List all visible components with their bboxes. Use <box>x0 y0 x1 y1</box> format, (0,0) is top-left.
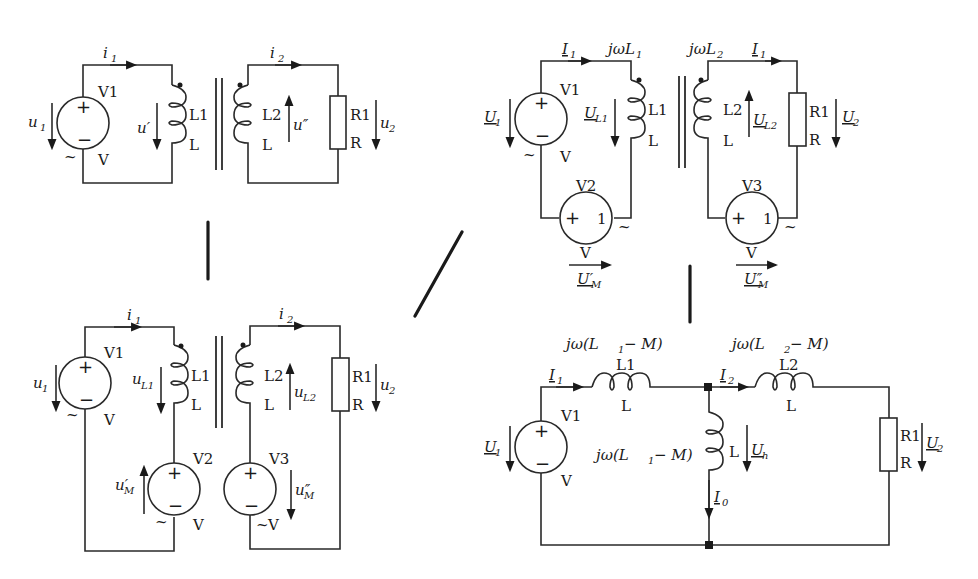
svg-text:~: ~ <box>66 406 79 424</box>
svg-text:i: i <box>279 305 284 323</box>
wire <box>83 149 172 183</box>
svg-text:u″: u″ <box>293 116 309 134</box>
plus-sign: + <box>76 96 91 117</box>
svg-text:L: L <box>264 396 274 414</box>
current-label: i <box>103 44 108 62</box>
svg-text:R: R <box>350 134 362 152</box>
svg-text:L: L <box>262 136 272 154</box>
svg-text:i: i <box>127 306 132 324</box>
svg-text:L1: L1 <box>140 380 154 391</box>
svg-text:I: I <box>751 40 759 58</box>
svg-text:V: V <box>579 244 592 262</box>
inductor-l1 <box>614 80 645 218</box>
svg-text:V: V <box>559 148 572 166</box>
svg-text:~: ~ <box>618 218 631 236</box>
svg-text:− M): − M) <box>654 446 693 464</box>
label-v: V <box>97 151 110 169</box>
svg-text:V: V <box>103 411 116 429</box>
voltage-label: u <box>28 113 38 131</box>
svg-text:1: 1 <box>42 383 48 394</box>
svg-text:~: ~ <box>256 516 269 534</box>
svg-text:I: I <box>719 366 727 384</box>
circuit-d: I 1 + − V1 V U 1 jω(L 1 − M) L1 L I 2 jω… <box>484 335 943 549</box>
resistor-r1 <box>789 93 806 146</box>
wire <box>83 65 172 97</box>
svg-text:0: 0 <box>722 497 729 508</box>
svg-text:jω(L: jω(L <box>563 335 599 353</box>
svg-text:+: + <box>534 92 549 113</box>
minus-sign: − <box>77 129 92 150</box>
svg-text:2: 2 <box>852 117 859 128</box>
svg-text:V: V <box>192 516 205 534</box>
svg-text:R: R <box>900 454 912 472</box>
svg-text:I: I <box>548 366 556 384</box>
svg-text:L: L <box>786 397 796 415</box>
svg-text:jωL: jωL <box>605 40 635 58</box>
svg-text:2: 2 <box>286 314 293 325</box>
svg-text:V3: V3 <box>268 450 289 468</box>
svg-text:−: − <box>535 453 550 474</box>
svg-text:L1: L1 <box>616 356 636 374</box>
svg-text:−: − <box>535 125 550 146</box>
svg-text:2: 2 <box>727 375 734 386</box>
svg-text:M: M <box>757 279 769 290</box>
svg-text:+: + <box>731 207 746 228</box>
svg-text:R: R <box>809 131 821 149</box>
svg-text:L2: L2 <box>264 367 284 385</box>
svg-text:V1: V1 <box>559 81 580 99</box>
svg-text:jω(L: jω(L <box>593 446 629 464</box>
svg-text:L2: L2 <box>302 392 316 403</box>
inductor-l2 <box>236 345 253 464</box>
svg-text:−: − <box>244 495 259 516</box>
svg-text:+: + <box>167 462 182 483</box>
svg-text:1: 1 <box>557 375 563 386</box>
svg-text:M: M <box>590 279 602 290</box>
svg-text:1: 1 <box>636 49 642 60</box>
svg-text:L1: L1 <box>594 113 608 124</box>
svg-text:V: V <box>745 244 758 262</box>
inductor-l2 <box>234 85 251 156</box>
svg-text:L1: L1 <box>648 101 668 119</box>
svg-text:L2: L2 <box>723 101 743 119</box>
transform-arrow-diagonal <box>415 232 462 316</box>
svg-text:R1: R1 <box>809 103 830 121</box>
svg-text:I: I <box>713 488 721 506</box>
label-l: L <box>189 136 199 154</box>
svg-text:+: + <box>534 420 549 441</box>
svg-text:1: 1 <box>111 53 117 64</box>
svg-text:2: 2 <box>936 443 943 454</box>
svg-text:V: V <box>267 516 280 534</box>
svg-text:~: ~ <box>784 218 797 236</box>
svg-text:2: 2 <box>388 123 395 134</box>
resistor-r1 <box>880 418 897 471</box>
inductor-l1 <box>592 373 708 390</box>
svg-text:~: ~ <box>523 146 536 164</box>
circuit-a: + − ~ V1 V u 1 i 1 L1 L u′ i 2 L2 L u″ R… <box>28 44 395 183</box>
svg-text:i: i <box>270 44 275 62</box>
circuit-b: i 1 + − ~ V1 V u 1 L1 L u L1 + − ~ V2 V … <box>33 305 395 551</box>
svg-text:V2: V2 <box>575 177 596 195</box>
svg-text:L: L <box>648 132 658 150</box>
svg-text:L: L <box>191 396 201 414</box>
svg-text:R1: R1 <box>350 106 371 124</box>
svg-text:− M): − M) <box>790 335 829 353</box>
svg-text:1: 1 <box>570 49 576 60</box>
inductor-l2 <box>694 80 725 218</box>
svg-text:~: ~ <box>155 513 168 531</box>
svg-text:− M): − M) <box>624 335 663 353</box>
svg-text:+: + <box>78 356 93 377</box>
label-v1: V1 <box>97 83 118 101</box>
label-l1: L1 <box>189 106 209 124</box>
svg-text:V2: V2 <box>192 450 213 468</box>
svg-text:u′: u′ <box>137 119 151 137</box>
svg-text:L2: L2 <box>779 356 799 374</box>
svg-text:1: 1 <box>597 210 607 228</box>
svg-text:L1: L1 <box>191 367 211 385</box>
svg-text:V1: V1 <box>560 407 581 425</box>
svg-text:1: 1 <box>763 210 773 228</box>
svg-text:I: I <box>561 40 569 58</box>
svg-text:2: 2 <box>716 49 723 60</box>
junction-node <box>705 541 713 549</box>
svg-text:1: 1 <box>760 49 766 60</box>
circuit-diagram: + − ~ V1 V u 1 i 1 L1 L u′ i 2 L2 L u″ R… <box>0 0 978 579</box>
